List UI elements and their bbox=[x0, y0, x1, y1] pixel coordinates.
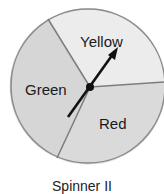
section-label-red: Red bbox=[99, 115, 127, 132]
section-label-yellow: Yellow bbox=[80, 33, 123, 50]
spinner-caption: Spinner II bbox=[0, 178, 164, 194]
section-label-green: Green bbox=[25, 81, 67, 98]
spinner-hub bbox=[86, 83, 94, 91]
spinner-diagram: Yellow Green Red bbox=[0, 0, 164, 194]
